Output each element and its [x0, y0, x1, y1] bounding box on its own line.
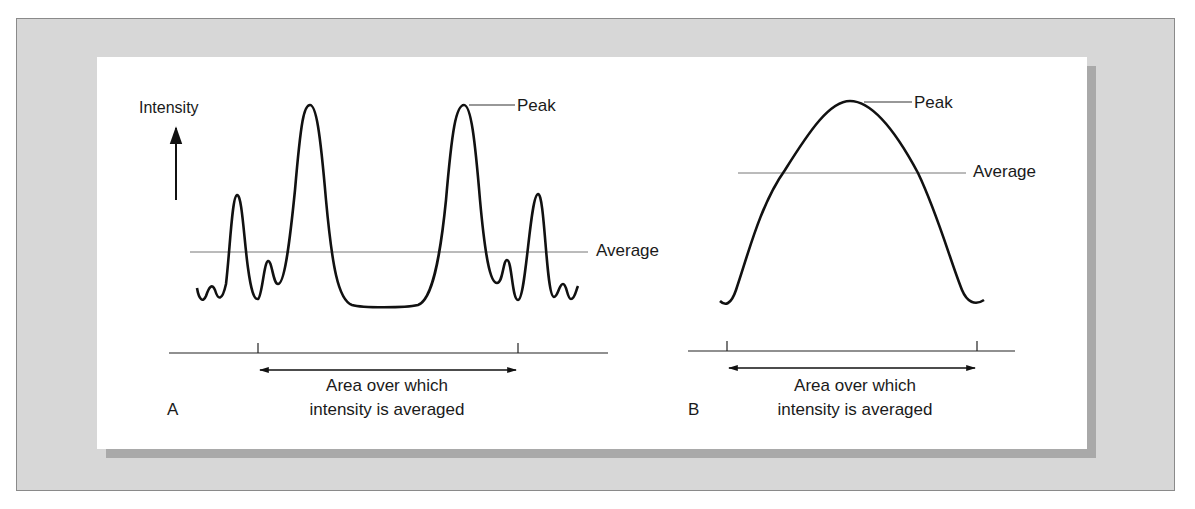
average-label-a: Average — [596, 241, 659, 260]
average-label-b: Average — [973, 162, 1036, 181]
intensity-curve-a — [197, 105, 578, 307]
figure-svg: Intensity Average Peak Area over which i… — [0, 0, 1195, 509]
area-label-b-line1: Area over which — [794, 376, 916, 395]
panel-a: Intensity Average Peak Area over which i… — [139, 96, 659, 419]
peak-label-b: Peak — [914, 93, 953, 112]
panel-b: Average Peak Area over which intensity i… — [688, 93, 1036, 419]
peak-label-a: Peak — [517, 96, 556, 115]
panel-letter-a: A — [167, 400, 179, 419]
intensity-axis-label: Intensity — [139, 99, 199, 116]
area-label-b-line2: intensity is averaged — [778, 400, 933, 419]
area-label-a-line2: intensity is averaged — [310, 400, 465, 419]
area-label-a-line1: Area over which — [326, 376, 448, 395]
intensity-curve-b — [720, 101, 984, 304]
panel-letter-b: B — [688, 400, 699, 419]
